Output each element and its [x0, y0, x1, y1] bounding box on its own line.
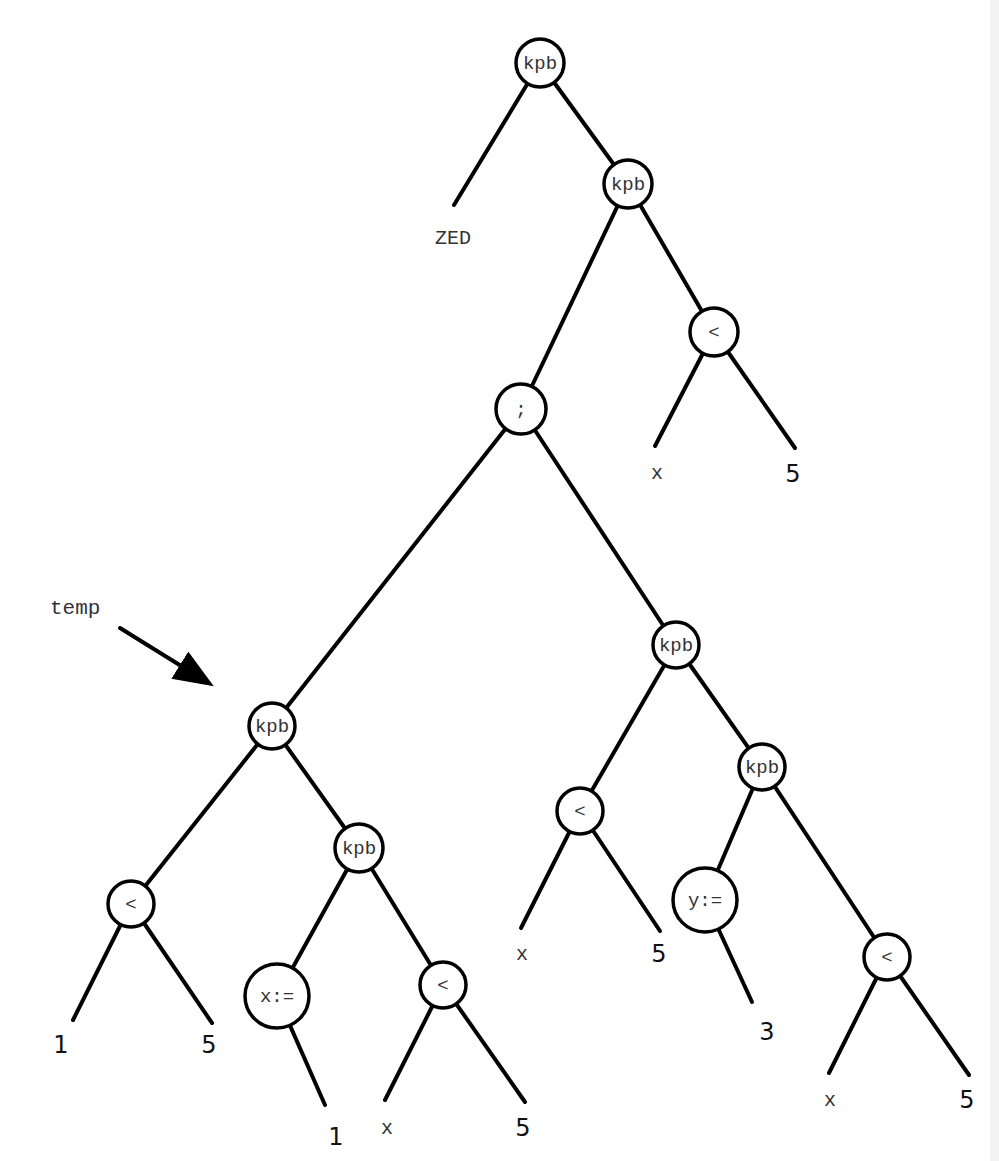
node-label: kpb — [523, 53, 557, 75]
tree-node: ; — [496, 384, 546, 434]
temp-arrow-icon — [120, 628, 207, 682]
node-label: kpb — [611, 174, 645, 196]
tree-node: < — [557, 788, 603, 834]
tree-node: kpb — [739, 744, 785, 790]
leaf-label: x — [824, 1089, 836, 1112]
syntax-tree-diagram: kpbkpb<;kpbkpb<kpbx:=<<kpby:=< ZEDx5151x… — [0, 0, 999, 1161]
node-label: < — [437, 975, 448, 997]
leaf-label: 1 — [53, 1031, 68, 1059]
node-label: < — [708, 322, 719, 344]
tree-node: y:= — [673, 868, 737, 932]
leaf-label: x — [516, 943, 528, 966]
leaf-label: x — [381, 1117, 393, 1140]
leaf-label: 1 — [328, 1123, 343, 1151]
tree-node: < — [690, 308, 738, 356]
temp-label: temp — [50, 597, 100, 620]
tree-node: kpb — [335, 824, 383, 872]
tree-node: < — [108, 881, 154, 927]
tree-node: kpb — [653, 622, 699, 668]
leaf-label: 5 — [785, 460, 800, 488]
tree-edges — [131, 63, 887, 996]
node-label: < — [881, 947, 892, 969]
tree-edge — [521, 184, 628, 409]
tree-edge — [272, 409, 521, 726]
node-label: y:= — [688, 890, 722, 912]
tree-node: < — [864, 934, 910, 980]
leaf-label: ZED — [435, 227, 471, 250]
tree-nodes: kpbkpb<;kpbkpb<kpbx:=<<kpby:=< — [108, 39, 910, 1028]
leaf-label: 3 — [759, 1018, 774, 1046]
node-label: kpb — [255, 716, 289, 738]
tree-node: kpb — [604, 160, 652, 208]
tree-node: x:= — [245, 964, 309, 1028]
tree-edge — [580, 645, 676, 811]
leaf-label: 5 — [651, 940, 666, 968]
tree-node: < — [420, 962, 466, 1008]
tree-edge — [131, 726, 272, 904]
tree-node: kpb — [516, 39, 564, 87]
leaf-label: 5 — [201, 1031, 216, 1059]
node-label: kpb — [342, 838, 376, 860]
leaf-label: 5 — [515, 1114, 530, 1142]
node-label: kpb — [659, 635, 693, 657]
tree-edge — [762, 767, 887, 957]
tree-leaves: ZEDx5151x5x53x5 — [53, 227, 974, 1151]
tree-edge — [521, 409, 676, 645]
node-label: kpb — [745, 757, 779, 779]
node-label: < — [574, 801, 585, 823]
leaf-label: x — [651, 462, 663, 485]
node-label: x:= — [260, 986, 294, 1008]
leaf-label: 5 — [959, 1086, 974, 1114]
tree-node: kpb — [249, 703, 295, 749]
temp-annotation: temp — [50, 597, 207, 682]
node-label: ; — [515, 399, 526, 421]
node-label: < — [125, 894, 136, 916]
